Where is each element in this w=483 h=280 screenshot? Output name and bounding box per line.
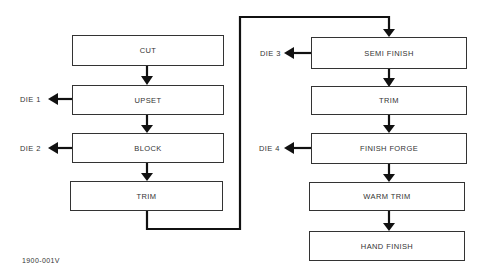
step-block: BLOCK xyxy=(72,133,224,163)
step-upset: UPSET xyxy=(72,85,224,115)
step-label: HAND FINISH xyxy=(361,242,413,251)
die-4-label: DIE 4 xyxy=(259,144,280,153)
step-label: BLOCK xyxy=(134,144,161,153)
step-label: WARM TRIM xyxy=(363,192,410,201)
die-2-label: DIE 2 xyxy=(20,144,41,153)
step-trim-1: TRIM xyxy=(70,181,223,211)
step-label: TRIM xyxy=(379,96,399,105)
step-label: FINISH FORGE xyxy=(360,144,418,153)
step-warm-trim: WARM TRIM xyxy=(309,182,465,211)
step-label: CUT xyxy=(140,46,157,55)
step-label: UPSET xyxy=(134,96,161,105)
step-trim-2: TRIM xyxy=(311,86,467,115)
step-hand-finish: HAND FINISH xyxy=(309,231,465,261)
step-label: SEMI FINISH xyxy=(364,49,413,58)
die-1-label: DIE 1 xyxy=(20,95,41,104)
step-label: TRIM xyxy=(137,192,157,201)
step-cut: CUT xyxy=(72,35,224,66)
step-finish-forge: FINISH FORGE xyxy=(311,133,467,164)
step-semi-finish: SEMI FINISH xyxy=(311,37,467,69)
die-3-label: DIE 3 xyxy=(260,49,281,58)
figure-id: 1900-001V xyxy=(22,257,60,264)
